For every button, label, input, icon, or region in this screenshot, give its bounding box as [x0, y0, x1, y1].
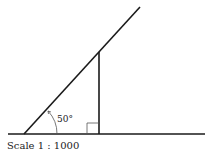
diagram-canvas: 50° Scale 1 : 1000: [0, 0, 208, 152]
angle-arc: [48, 111, 57, 134]
angle-label: 50°: [57, 114, 73, 124]
right-angle-marker: [87, 123, 99, 134]
sloped-line: [24, 7, 140, 134]
scale-label: Scale 1 : 1000: [7, 140, 79, 151]
